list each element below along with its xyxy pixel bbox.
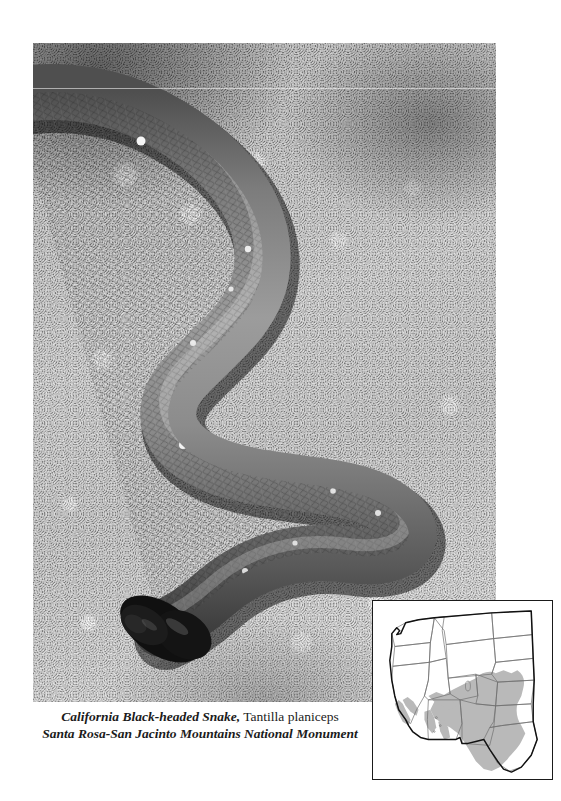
caption-line-location: Santa Rosa-San Jacinto Mountains Nationa… [0,725,400,742]
photo-caption: California Black-headed Snake, Tantilla … [0,708,400,742]
caption-location-name: Santa Rosa-San Jacinto Mountains Nationa… [42,726,357,741]
photo-scan-line [33,88,496,89]
distribution-range-map [372,600,553,780]
caption-common-name: California Black-headed Snake, [61,709,240,724]
range-map-svg [373,601,552,779]
page-root: California Black-headed Snake, Tantilla … [0,0,561,801]
caption-scientific-name: Tantilla planiceps [243,709,338,724]
caption-line-species: California Black-headed Snake, Tantilla … [0,708,400,725]
